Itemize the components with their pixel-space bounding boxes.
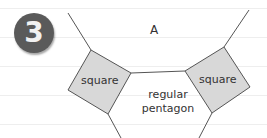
- region-a-label: A: [150, 23, 158, 37]
- edge-lower-right: [199, 113, 212, 138]
- pentagon-label-line2: pentagon: [135, 102, 201, 115]
- edge-lower-left: [108, 114, 121, 138]
- pentagon-label-line1: regular: [138, 88, 198, 101]
- right-square-label: square: [199, 73, 236, 86]
- step-number-badge: 3: [14, 13, 54, 53]
- edge-pentagon-top: [131, 71, 185, 73]
- edge-upper-right: [224, 10, 249, 47]
- left-square-label: square: [81, 74, 118, 87]
- edge-upper-left: [68, 13, 91, 50]
